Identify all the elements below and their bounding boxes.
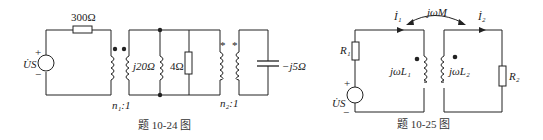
polarity-dot [453, 55, 458, 60]
source-minus: − [35, 68, 41, 80]
ratio-n2: n₂:1 [220, 97, 239, 109]
coil-primary-2 [220, 52, 223, 80]
label-R2: R₂ [508, 70, 520, 82]
resistor-R1 [352, 42, 359, 60]
source-minus: − [343, 106, 349, 118]
polarity-dot [415, 57, 420, 62]
junction-dot [158, 93, 162, 97]
voltage-source-icon [347, 87, 363, 103]
circuit-10-24 [38, 26, 279, 95]
caption-10-24: 题 10-24 图 [138, 119, 191, 131]
current-I2: İ₂ [477, 10, 486, 22]
resistor-4 [185, 52, 192, 74]
mutual-arrow-right [458, 19, 466, 25]
junction-dot [158, 28, 162, 32]
current-arrow-2 [479, 27, 486, 33]
resistor-R2 [499, 66, 506, 86]
star-marker: * [220, 39, 226, 51]
coil-primary-1 [111, 56, 114, 80]
diagram-canvas: 300Ω + U̇S − n₁:1 j20Ω 4Ω * * n₂:1 −j5Ω … [0, 0, 543, 140]
resistor-300 [73, 26, 92, 33]
coil-L1 [424, 56, 427, 82]
coil-secondary-1 [126, 56, 129, 80]
label-jwL1: jωL₁ [388, 65, 411, 77]
label-jwL2: jωL₂ [447, 65, 470, 77]
ratio-n1: n₁:1 [112, 99, 131, 111]
mutual-label: jωM [425, 6, 448, 18]
polarity-dot [122, 47, 126, 51]
mutual-arrow-left [406, 19, 414, 25]
star-marker: * [232, 39, 238, 51]
label-R1: R₁ [339, 44, 351, 56]
source-plus: + [344, 77, 350, 89]
current-I1: İ₁ [393, 10, 402, 22]
label-cap: −j5Ω [282, 60, 306, 72]
label-j20: j20Ω [131, 60, 155, 72]
caption-10-25: 题 10-25 图 [397, 118, 450, 130]
current-arrow-1 [397, 27, 404, 33]
coil-L2 [441, 56, 444, 82]
label-4: 4Ω [170, 60, 184, 72]
polarity-dot [113, 47, 117, 51]
coil-secondary-2 [236, 52, 239, 80]
inductor-j20 [160, 56, 163, 80]
source-plus: + [35, 46, 41, 58]
label-300: 300Ω [71, 11, 96, 23]
